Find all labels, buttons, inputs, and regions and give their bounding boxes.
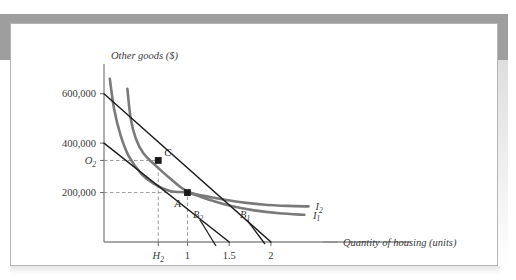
y-axis-title: Other goods ($)	[111, 50, 179, 62]
card-shadow-bottom-fade	[10, 266, 500, 274]
data-point-A	[184, 189, 191, 196]
label-B2: B2	[193, 209, 203, 223]
x-axis-title: Quantity of housing (units)	[343, 237, 457, 249]
figure-card: Other goods ($)Quantity of housing (unit…	[10, 23, 498, 266]
label-B1: B1	[240, 209, 250, 223]
x-tick-label-1: 1	[185, 250, 190, 261]
x-tick-label-0: H2	[152, 250, 165, 264]
x-tick-label-2: 1.5	[223, 250, 236, 261]
data-point-markers-layer	[155, 157, 191, 196]
leader-line-B1	[247, 220, 265, 244]
y-tick-label-0: 600,000	[62, 88, 96, 99]
y-tick-label-2: O2	[85, 155, 97, 169]
card-shadow-left	[0, 14, 10, 60]
y-tick-label-3: 200,000	[62, 187, 96, 198]
label-point-C: C	[164, 147, 172, 158]
label-point-A: A	[173, 198, 181, 209]
axes-layer	[104, 64, 411, 242]
x-tick-label-3: 2	[268, 250, 273, 261]
figure-root: Other goods ($)Quantity of housing (unit…	[0, 0, 516, 280]
data-point-C	[155, 157, 162, 164]
card-shadow-right	[498, 14, 508, 62]
y-tick-label-1: 400,000	[62, 138, 96, 149]
card-shadow-right-fade	[498, 60, 508, 270]
curve-I2	[127, 89, 308, 207]
tick-marks-layer	[100, 94, 271, 246]
indifference-curve-chart: Other goods ($)Quantity of housing (unit…	[11, 24, 497, 265]
